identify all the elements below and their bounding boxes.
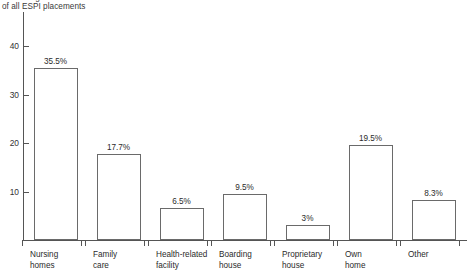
category-label-line: Health-related [156, 250, 207, 261]
bar-value-label-1: 17.7% [89, 143, 149, 152]
category-separator-4-0 [274, 240, 275, 246]
bar-value-label-4: 3% [278, 214, 338, 223]
y-axis-caption-line2: of all ESPI placements [2, 2, 85, 11]
category-label-line: home [345, 261, 365, 272]
bar-6 [412, 200, 456, 240]
category-label-6: Other [408, 250, 428, 261]
bar-value-label-5: 19.5% [341, 134, 401, 143]
y-tick-label-20: 20 [0, 138, 19, 148]
category-label-line: facility [156, 261, 207, 272]
y-tick-40 [23, 46, 29, 47]
category-label-line: Boarding [219, 250, 252, 261]
category-label-2: Health-relatedfacility [156, 250, 207, 271]
category-separator-0-1 [81, 240, 82, 246]
bar-value-label-2: 6.5% [152, 197, 212, 206]
category-label-0: Nursinghomes [30, 250, 58, 271]
category-label-line: house [219, 261, 252, 272]
category-label-line: Nursing [30, 250, 58, 261]
category-label-line: Other [408, 250, 428, 261]
category-separator-6-1 [459, 240, 460, 246]
bar-value-label-0: 35.5% [26, 57, 86, 66]
bar-2 [160, 208, 204, 240]
category-label-line: homes [30, 261, 58, 272]
bar-5 [349, 145, 393, 240]
category-label-3: Boardinghouse [219, 250, 252, 271]
category-separator-0-0 [22, 240, 23, 246]
category-separator-3-1 [270, 240, 271, 246]
category-separator-5-1 [396, 240, 397, 246]
category-separator-2-1 [207, 240, 208, 246]
y-tick-30 [23, 95, 29, 96]
category-separator-2-0 [148, 240, 149, 246]
category-label-line: Own [345, 250, 365, 261]
category-separator-4-1 [333, 240, 334, 246]
category-separator-1-1 [144, 240, 145, 246]
category-separator-6-0 [400, 240, 401, 246]
y-tick-label-30: 30 [0, 90, 19, 100]
y-tick-20 [23, 143, 29, 144]
category-label-line: Family [93, 250, 117, 261]
category-label-5: Ownhome [345, 250, 365, 271]
category-separator-5-0 [337, 240, 338, 246]
y-axis-caption: Percentage of all ESPI placements [2, 0, 85, 12]
category-label-line: care [93, 261, 117, 272]
y-tick-label-10: 10 [0, 187, 19, 197]
category-label-1: Familycare [93, 250, 117, 271]
category-label-line: Proprietary [282, 250, 322, 261]
y-tick-10 [23, 192, 29, 193]
bar-value-label-3: 9.5% [215, 183, 275, 192]
y-tick-label-40: 40 [0, 41, 19, 51]
category-separator-3-0 [211, 240, 212, 246]
bar-value-label-6: 8.3% [404, 189, 464, 198]
bar-4 [286, 225, 330, 240]
category-label-line: house [282, 261, 322, 272]
bar-3 [223, 194, 267, 240]
bar-0 [34, 68, 78, 240]
bar-1 [97, 154, 141, 240]
category-label-4: Proprietaryhouse [282, 250, 322, 271]
category-separator-1-0 [85, 240, 86, 246]
bar-chart: Percentage of all ESPI placements 102030… [0, 0, 470, 278]
